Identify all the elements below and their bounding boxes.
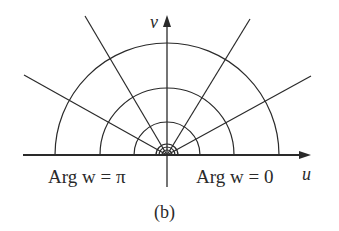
u-axis-arrow-icon bbox=[299, 151, 311, 159]
arg-pi-label: Arg w = π bbox=[48, 166, 126, 187]
figure-caption: (b) bbox=[154, 202, 175, 223]
u-axis-label: u bbox=[302, 164, 311, 184]
arg-zero-label: Arg w = 0 bbox=[196, 166, 273, 187]
v-axis-label: v bbox=[150, 12, 158, 32]
w-plane-diagram: v u Arg w = π Arg w = 0 (b) bbox=[0, 0, 339, 231]
v-axis-arrow-icon bbox=[163, 15, 171, 27]
